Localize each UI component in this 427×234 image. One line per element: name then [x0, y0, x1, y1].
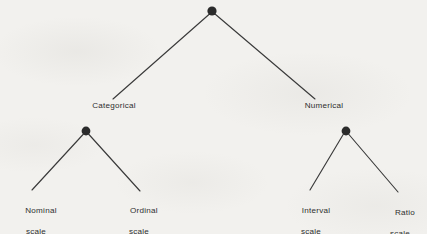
- label-numerical: Numerical: [305, 101, 344, 111]
- label-nominal-scale: Nominal scale: [15, 196, 56, 234]
- label-nominal-scale-line1: Nominal: [25, 206, 56, 215]
- edge-numerical-to-ratio: [349, 134, 399, 192]
- label-interval-scale-line2: scale: [292, 227, 331, 234]
- node-numerical: [342, 127, 351, 136]
- label-ratio-scale-line1: Ratio: [395, 208, 415, 217]
- node-root: [207, 6, 216, 15]
- label-interval-scale: Interval scale: [292, 196, 331, 234]
- edge-categorical-to-ordinal: [89, 134, 141, 191]
- edge-root-to-numerical: [215, 14, 315, 99]
- label-categorical: Categorical: [92, 101, 136, 111]
- label-interval-scale-line1: Interval: [302, 206, 331, 215]
- tree-edges-and-nodes: [0, 0, 427, 234]
- label-nominal-scale-line2: scale: [15, 227, 56, 234]
- edge-numerical-to-interval: [310, 134, 344, 190]
- label-ratio-scale: Ratio scale: [385, 198, 415, 234]
- edge-categorical-to-nominal: [32, 134, 84, 190]
- edge-root-to-categorical: [113, 14, 210, 99]
- label-ratio-scale-line2: scale: [385, 229, 415, 234]
- tree-diagram: Categorical Numerical Nominal scale Ordi…: [0, 0, 427, 234]
- label-ordinal-scale-line1: Ordinal: [130, 206, 158, 215]
- label-ordinal-scale: Ordinal scale: [120, 196, 158, 234]
- label-ordinal-scale-line2: scale: [120, 227, 158, 234]
- node-categorical: [82, 127, 91, 136]
